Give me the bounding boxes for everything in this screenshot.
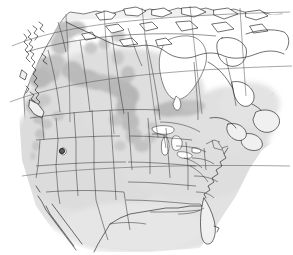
locality-markers-layer [59, 148, 64, 153]
map-figure: Shaded distribution map of North America… [0, 0, 293, 255]
north-america-map [0, 0, 293, 255]
locality-marker-great-basin[interactable] [59, 148, 64, 153]
